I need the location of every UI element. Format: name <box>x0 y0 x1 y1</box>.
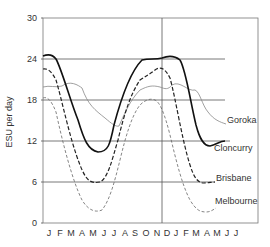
svg-text:J: J <box>102 228 107 238</box>
label-melbourne: Melbourne <box>215 196 258 206</box>
svg-text:M: M <box>192 228 200 238</box>
y-tick-6: 6 <box>32 177 37 187</box>
svg-text:S: S <box>132 228 138 238</box>
svg-text:M: M <box>89 228 97 238</box>
x-axis-labels: J F M A M J J A S O N D J F M A M J J <box>47 228 239 238</box>
label-brisbane: Brisbane <box>216 173 252 183</box>
gridlines <box>43 18 230 223</box>
series-melbourne <box>43 98 216 212</box>
y-tick-12: 12 <box>27 136 37 146</box>
svg-text:N: N <box>154 228 161 238</box>
y-tick-30: 30 <box>27 13 37 23</box>
svg-text:M: M <box>67 228 75 238</box>
svg-text:J: J <box>112 228 117 238</box>
svg-text:F: F <box>183 228 189 238</box>
svg-text:J: J <box>234 228 239 238</box>
series-cloncurry <box>43 55 225 152</box>
label-cloncurry: Cloncurry <box>214 143 253 153</box>
svg-text:F: F <box>57 228 63 238</box>
esu-chart: 30 24 18 12 6 0 ESU per day Goroka Clonc… <box>0 0 270 247</box>
svg-text:A: A <box>79 228 85 238</box>
plot-frame <box>43 18 258 223</box>
svg-text:J: J <box>225 228 230 238</box>
svg-text:J: J <box>47 228 52 238</box>
svg-text:M: M <box>213 228 221 238</box>
y-tick-24: 24 <box>27 54 37 64</box>
y-tick-0: 0 <box>32 218 37 228</box>
y-axis-label: ESU per day <box>4 96 14 148</box>
svg-text:A: A <box>204 228 210 238</box>
svg-text:O: O <box>142 228 149 238</box>
label-goroka: Goroka <box>227 115 257 125</box>
svg-text:J: J <box>174 228 179 238</box>
series-brisbane <box>43 68 215 183</box>
svg-text:D: D <box>164 228 171 238</box>
y-tick-18: 18 <box>27 95 37 105</box>
svg-text:A: A <box>122 228 128 238</box>
